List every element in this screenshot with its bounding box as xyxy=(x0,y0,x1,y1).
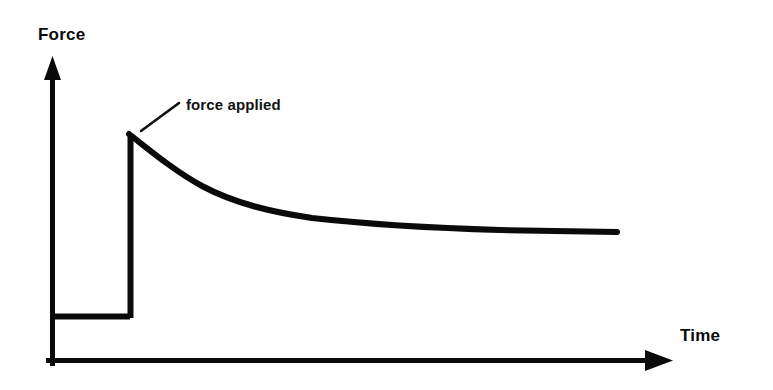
force-curve xyxy=(53,134,617,318)
x-axis xyxy=(46,350,673,371)
figure-canvas: force applied Force Time xyxy=(0,0,773,390)
y-axis-arrowhead-icon xyxy=(44,56,61,80)
annotation-leader-line xyxy=(141,103,179,131)
curve-relaxation-decay-segment xyxy=(129,134,617,232)
x-axis-arrowhead-icon xyxy=(645,350,673,371)
force-vs-time-plot: force applied Force Time xyxy=(0,0,773,390)
y-axis-label: Force xyxy=(38,25,85,44)
x-axis-label: Time xyxy=(680,326,720,345)
annotation-force-applied: force applied xyxy=(186,96,281,113)
